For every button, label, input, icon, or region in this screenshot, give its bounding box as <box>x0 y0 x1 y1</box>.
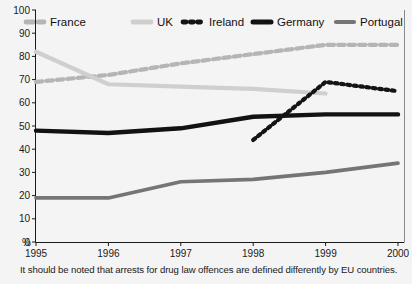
chart-footnote: It should be noted that arrests for drug… <box>20 264 397 275</box>
x-axis-tick-label: 1998 <box>242 248 265 259</box>
legend-label-germany: Germany <box>277 16 325 28</box>
y-axis-tick-label: 70 <box>19 74 31 85</box>
x-axis-tick-label: 1997 <box>170 248 193 259</box>
y-axis-tick-label: 80 <box>19 51 31 62</box>
y-axis-tick-label: 90 <box>19 28 31 39</box>
x-axis-tick-label: 1996 <box>97 248 120 259</box>
legend-label-uk: UK <box>157 16 173 28</box>
y-axis-tick-label: 100 <box>13 5 30 16</box>
x-axis-tick-label: 2000 <box>387 248 410 259</box>
y-axis-tick-label: 30 <box>19 167 31 178</box>
x-axis-tick-label: 1999 <box>314 248 337 259</box>
y-axis-tick-label: 60 <box>19 97 31 108</box>
y-axis-tick-label: 50 <box>19 121 31 132</box>
y-axis-unit-label: % <box>22 237 31 248</box>
legend-label-france: France <box>50 16 86 28</box>
legend-label-portugal: Portugal <box>360 16 403 28</box>
y-axis-tick-label: 40 <box>19 144 31 155</box>
chart-container: FranceUKIrelandGermanyPortugal 010203040… <box>0 0 412 284</box>
line-chart: FranceUKIrelandGermanyPortugal 010203040… <box>0 0 412 284</box>
y-axis-tick-label: 10 <box>19 213 31 224</box>
x-axis-tick-label: 1995 <box>25 248 48 259</box>
y-axis-tick-label: 20 <box>19 190 31 201</box>
legend-label-ireland: Ireland <box>209 16 244 28</box>
